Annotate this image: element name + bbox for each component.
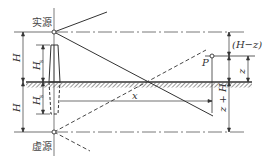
real-source-label: 实源 [32,16,52,28]
real-plume-upper-edge [54,12,107,32]
svg-text:s: s [37,95,44,98]
image-source-diagram: 实源 虚源 H H H s H s P x (H−z) z z + H [0,0,263,159]
distance-x-label: x [132,90,138,101]
receptor-P-label: P [201,57,209,68]
H-lower-label: H [11,103,22,113]
virtual-plume-lower-edge [54,132,90,151]
H-minus-z-label: (H−z) [232,39,262,50]
chimney [49,45,60,82]
real-source-point [52,30,56,34]
receptor-point [210,54,214,58]
Hs-lower-label: H s [31,95,44,106]
virtual-plume-upper-edge [54,50,206,132]
virtual-source-point [52,130,56,134]
virtual-source-label: 虚源 [32,140,52,152]
Hs-upper-label: H s [31,60,44,71]
z-label: z [236,68,247,75]
real-plume-lower-edge [54,32,213,116]
svg-text:s: s [37,60,44,63]
z-plus-H-label: z + H [217,83,228,113]
H-upper-label: H [11,53,22,63]
